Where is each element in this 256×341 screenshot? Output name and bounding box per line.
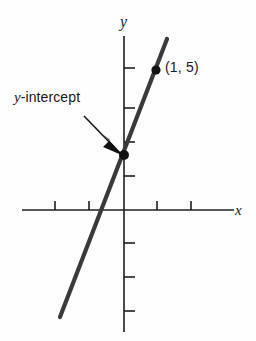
graph-figure: y x (1, 5) y-intercept — [0, 0, 256, 341]
y-intercept-label-text: -intercept — [21, 89, 80, 105]
y-intercept-annotation-label: y-intercept — [14, 90, 80, 105]
x-axis-label: x — [235, 203, 242, 218]
point-coordinate-label: (1, 5) — [165, 60, 199, 74]
x-axis-ticks — [55, 201, 191, 210]
coordinate-plane — [0, 0, 256, 341]
point-marker-1-5 — [151, 65, 160, 74]
y-axis-ticks — [124, 68, 135, 311]
y-axis-label: y — [120, 14, 127, 30]
plotted-line — [60, 39, 167, 317]
point-marker-y-intercept — [119, 150, 129, 160]
intercept-arrow — [84, 116, 124, 156]
y-intercept-label-italic-y: y — [14, 89, 21, 105]
